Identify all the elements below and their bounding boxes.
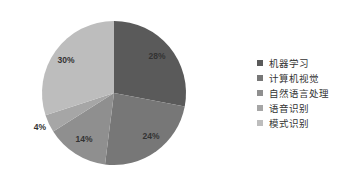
pie-slice [114,21,186,106]
legend-swatch [257,75,263,81]
legend-item: 模式识别 [257,115,329,130]
legend-item: 自然语言处理 [257,85,329,100]
legend-label: 计算机视觉 [269,71,319,85]
legend-label: 模式识别 [269,116,309,130]
data-label: 4% [34,122,47,132]
data-label: 14% [75,134,92,144]
legend-item: 计算机视觉 [257,70,329,85]
data-label: 30% [57,55,74,65]
legend-swatch [257,120,263,126]
legend: 机器学习 计算机视觉 自然语言处理 语音识别 模式识别 [257,55,329,130]
legend-item: 语音识别 [257,100,329,115]
legend-label: 语音识别 [269,101,309,115]
legend-label: 自然语言处理 [269,86,329,100]
legend-label: 机器学习 [269,56,309,70]
legend-swatch [257,60,263,66]
data-label: 24% [142,131,159,141]
legend-item: 机器学习 [257,55,329,70]
data-label: 28% [148,51,165,61]
legend-swatch [257,90,263,96]
legend-swatch [257,105,263,111]
